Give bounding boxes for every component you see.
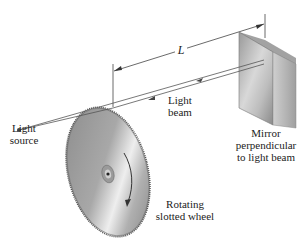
light-beam xyxy=(19,60,264,130)
mirror-label-line3: to light beam xyxy=(228,151,304,163)
distance-label: L xyxy=(175,44,187,56)
wheel-label-line2: slotted wheel xyxy=(152,210,218,222)
rotating-slotted-wheel xyxy=(19,98,163,245)
mirror-side xyxy=(273,52,296,128)
light-beam-label: Light beam xyxy=(158,94,202,118)
fizeau-apparatus-diagram: L Light beam Light source Mirror perpend… xyxy=(0,0,304,252)
mirror-label-line1: Mirror xyxy=(228,127,304,139)
wheel-label-line1: Rotating xyxy=(152,198,218,210)
dimension-arrow-right-icon xyxy=(256,24,264,29)
light-source-label-line1: Light xyxy=(4,122,44,134)
light-source-label-line2: source xyxy=(4,134,44,146)
wheel-axle-icon xyxy=(106,172,109,175)
mirror-label: Mirror perpendicular to light beam xyxy=(228,127,304,163)
beam-outgoing xyxy=(19,60,264,130)
wheel-label: Rotating slotted wheel xyxy=(152,198,218,222)
mirror xyxy=(239,32,296,128)
light-beam-label-line1: Light xyxy=(158,94,202,106)
dimension-arrow-left-icon xyxy=(114,66,122,71)
light-beam-label-line2: beam xyxy=(158,106,202,118)
mirror-label-line2: perpendicular xyxy=(228,139,304,151)
light-source-label: Light source xyxy=(4,122,44,146)
